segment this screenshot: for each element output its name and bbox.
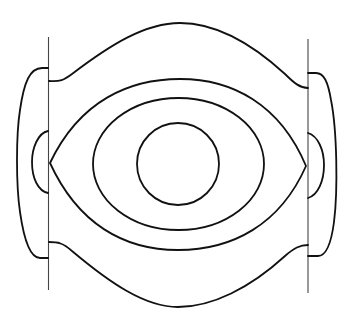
outer-bottom-curve: [49, 242, 308, 307]
middle-ellipse: [93, 98, 264, 230]
eye-diagram: [0, 0, 352, 315]
eye-shape: [50, 79, 306, 250]
left-inner-lobe: [32, 131, 48, 193]
right-inner-lobe: [308, 133, 324, 198]
inner-circle: [137, 123, 219, 205]
right-outer-lobe: [308, 73, 336, 256]
